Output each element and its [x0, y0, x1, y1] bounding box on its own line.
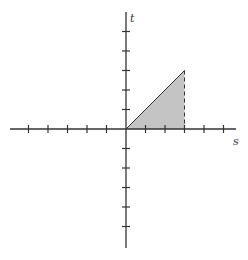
axes	[10, 12, 236, 248]
region-plot: s t	[0, 0, 248, 260]
t-axis-label: t	[130, 12, 135, 25]
diagram-canvas: s t	[0, 0, 248, 260]
shaded-triangle-region	[126, 71, 185, 130]
s-axis-label: s	[233, 135, 239, 148]
